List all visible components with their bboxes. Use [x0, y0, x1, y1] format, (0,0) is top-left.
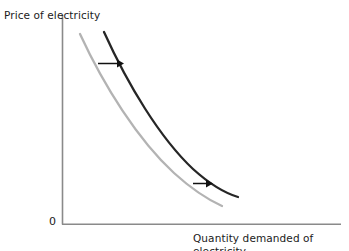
origin-label: 0 — [49, 215, 56, 228]
demand-curve-shift-figure: Price of electricity Quantity demanded o… — [0, 0, 349, 251]
chart-canvas — [0, 0, 349, 251]
x-axis-label: Quantity demanded of electricity — [193, 232, 349, 251]
lower-shift-arrow-icon — [193, 180, 213, 188]
y-axis-label: Price of electricity — [4, 9, 100, 22]
demand-curve-original — [80, 34, 222, 206]
